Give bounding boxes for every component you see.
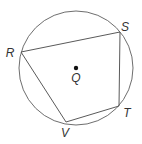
vertex-label-s: S bbox=[121, 21, 129, 33]
vertex-label-t: T bbox=[123, 107, 130, 119]
center-label-q: Q bbox=[71, 72, 80, 84]
vertex-label-v: V bbox=[61, 127, 69, 139]
center-point-q bbox=[74, 66, 78, 70]
vertex-label-r: R bbox=[6, 47, 15, 59]
circle-diagram: R S T V Q bbox=[0, 0, 142, 144]
